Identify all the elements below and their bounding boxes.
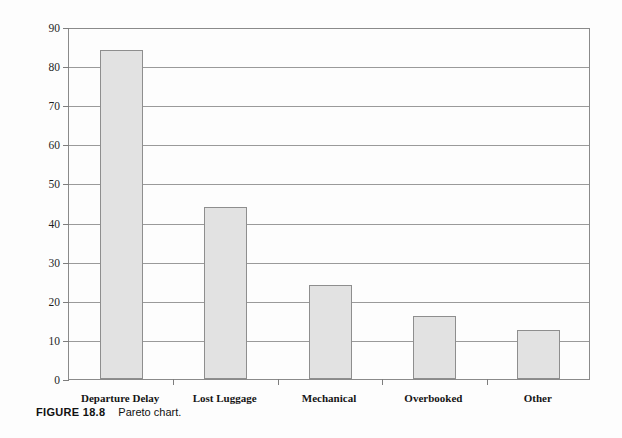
figure-caption-text: Pareto chart. [118,406,181,418]
x-axis-tick [173,379,174,385]
figure-caption: FIGURE 18.8Pareto chart. [36,406,181,418]
x-axis-tick [487,379,488,385]
y-axis-tick [63,184,69,185]
plot-area: 0102030405060708090 [68,28,590,380]
y-axis-tick-label: 10 [49,335,61,347]
y-axis-tick [63,145,69,146]
bar [413,316,456,379]
x-axis-category-label: Lost Luggage [193,392,257,404]
y-axis-tick [63,67,69,68]
y-axis-tick-label: 20 [49,296,61,308]
bar [309,285,352,379]
y-axis-tick [63,224,69,225]
y-axis-tick [63,341,69,342]
y-axis-tick [63,263,69,264]
bar [517,330,560,379]
gridline [69,224,589,225]
gridline [69,184,589,185]
y-axis-tick-label: 0 [54,374,60,386]
y-axis-tick-label: 70 [49,100,61,112]
y-axis-tick-label: 80 [49,61,61,73]
x-axis-category-label: Overbooked [404,392,462,404]
y-axis-tick-label: 60 [49,139,61,151]
x-axis-tick [382,379,383,385]
y-axis-tick-label: 50 [49,178,61,190]
pareto-chart-figure: Number of Problems 0102030405060708090 F… [0,0,622,438]
y-axis-tick-label: 30 [49,257,61,269]
gridline [69,67,589,68]
y-axis-tick [63,380,69,381]
figure-number: FIGURE 18.8 [36,406,105,418]
y-axis-tick [63,106,69,107]
y-axis-tick [63,302,69,303]
x-axis-category-label: Departure Delay [81,392,159,404]
y-axis-tick-label: 40 [49,218,61,230]
gridline [69,263,589,264]
bar [204,207,247,379]
x-axis-tick [278,379,279,385]
x-axis-category-label: Other [524,392,552,404]
gridline [69,145,589,146]
bar [100,50,143,379]
gridline [69,106,589,107]
gridline [69,28,589,29]
x-axis-category-label: Mechanical [302,392,356,404]
y-axis-tick-label: 90 [49,22,61,34]
y-axis-tick [63,28,69,29]
